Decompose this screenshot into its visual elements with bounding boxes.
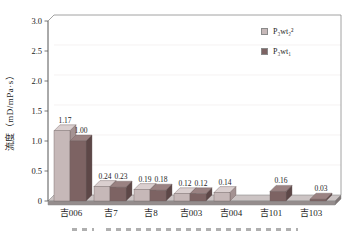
frame-topleft-diagonal [48,15,54,21]
bar-side-s2-吉006 [86,135,92,201]
y-axis-ticks: 3.02.52.01.51.00.50 [31,16,48,206]
bar-value-label-s1-吉8: 0.19 [138,175,151,184]
gridlines [54,45,341,165]
cropped-caption-fragment-2 [106,228,298,232]
x-axis-label-吉101: 吉101 [260,208,283,218]
legend-label-series1: P₃wt₂² [273,27,293,36]
bar-value-label-s1-吉7: 0.24 [98,172,111,181]
y-tick-label: 1.5 [31,106,42,116]
legend: P₃wt₂² P₃wt₁ [261,21,293,61]
y-tick-label: 2.5 [31,46,42,56]
y-axis-title: 流度（mD/mPa·s） [3,59,17,163]
bar-s2-吉003 [190,194,206,201]
bar-s1-吉004 [214,193,230,201]
bar-s2-吉8 [150,190,166,201]
bar-value-label-s2-吉8: 0.18 [154,175,167,184]
y-tick-label: 0.5 [31,166,42,176]
bar-value-label-s2-吉003: 0.12 [194,179,207,188]
bar-s1-吉006 [54,131,70,201]
cropped-caption-fragment-1 [72,228,94,232]
bar-s2-吉006 [70,141,86,201]
bar-value-label-s2-吉103: 0.03 [314,184,327,193]
x-axis-label-吉006: 吉006 [60,208,83,218]
bar-s2-吉101 [270,191,286,201]
legend-item-series1: P₃wt₂² [261,21,293,41]
chart-figure: 3.02.52.01.51.00.50 1.171.00吉0060.240.23… [0,0,348,234]
x-axis-label-吉103: 吉103 [300,208,323,218]
bar-value-label-s1-吉004: 0.14 [218,178,231,187]
x-axis-label-吉003: 吉003 [180,208,203,218]
bar-s1-吉8 [134,190,150,201]
y-tick-label: 1.0 [31,136,42,146]
bar-value-label-s2-吉101: 0.16 [274,176,287,185]
bar-value-label-s1-吉006: 1.17 [58,116,71,125]
x-axis-label-吉8: 吉8 [144,208,158,218]
bar-s1-吉7 [94,187,110,201]
legend-swatch-series2 [261,48,268,55]
legend-item-series2: P₃wt₁ [261,41,293,61]
y-tick-label: 2.0 [31,76,42,86]
floor-front-face [48,201,335,205]
bar-s1-吉003 [174,194,190,201]
bar-s2-吉103 [310,199,326,201]
y-tick-label: 3.0 [31,16,42,26]
bar-value-label-s1-吉003: 0.12 [178,179,191,188]
y-tick-label: 0 [38,196,42,206]
chart-canvas: 3.02.52.01.51.00.50 1.171.00吉0060.240.23… [0,0,348,234]
bar-value-label-s2-吉7: 0.23 [114,172,127,181]
legend-label-series2: P₃wt₁ [273,47,291,56]
bar-s2-吉7 [110,187,126,201]
x-axis-label-吉7: 吉7 [104,208,118,218]
bar-value-label-s2-吉006: 1.00 [74,126,87,135]
x-axis-label-吉004: 吉004 [220,208,243,218]
legend-swatch-series1 [261,28,268,35]
